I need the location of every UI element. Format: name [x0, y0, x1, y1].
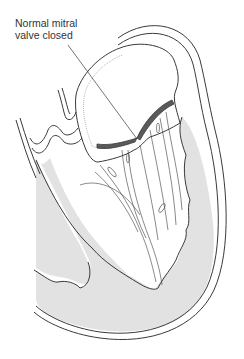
chordae-loop-3 [107, 166, 118, 178]
heart-illustration [0, 0, 244, 359]
chordae-loop-1 [127, 153, 130, 163]
aortic-root-inner [32, 136, 82, 154]
